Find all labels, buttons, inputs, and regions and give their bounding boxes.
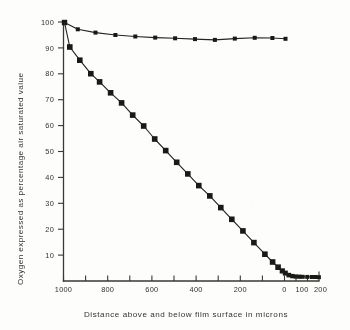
- y-tick-label: 100: [41, 18, 54, 27]
- y-tick-label: 70: [45, 95, 54, 104]
- y-tick-label: 50: [45, 147, 54, 156]
- y-tick-label: 10: [45, 251, 54, 260]
- y-axis-tick-labels: 100 90 80 70 60 50 40 30 20 10: [41, 18, 54, 260]
- figure-container: 100 90 80 70 60 50 40 30 20 10: [0, 0, 350, 330]
- x-tick-label: 200: [234, 285, 247, 294]
- y-axis-title: Oxygen expressed as percentage air satur…: [16, 73, 25, 285]
- y-tick-label: 90: [45, 44, 54, 53]
- x-tick-label: 200: [314, 285, 327, 294]
- x-tick-label: 400: [190, 285, 203, 294]
- x-axis-title: Distance above and below film surface in…: [84, 310, 288, 319]
- x-tick-label: 0: [282, 285, 286, 294]
- y-tick-label: 20: [45, 225, 54, 234]
- y-tick-label: 30: [45, 199, 54, 208]
- x-tick-label: 600: [145, 285, 158, 294]
- y-axis-ticks: [58, 22, 64, 255]
- lower-curve-markers: [67, 44, 321, 279]
- x-tick-label: 800: [101, 285, 114, 294]
- lower-curve-line: [65, 23, 319, 278]
- x-tick-label: 1000: [55, 285, 72, 294]
- x-axis-ticks-left: [64, 276, 285, 282]
- y-tick-label: 80: [45, 69, 54, 78]
- x-tick-label: 100: [295, 285, 308, 294]
- upper-curve-markers: [62, 20, 288, 42]
- y-tick-label: 60: [45, 121, 54, 130]
- y-tick-label: 40: [45, 173, 54, 182]
- oxygen-profile-chart: 100 90 80 70 60 50 40 30 20 10: [0, 0, 350, 330]
- x-axis-tick-labels-right: 0 100 200: [282, 285, 327, 294]
- x-axis-tick-labels-left: 1000 800 600 400 200: [55, 285, 247, 294]
